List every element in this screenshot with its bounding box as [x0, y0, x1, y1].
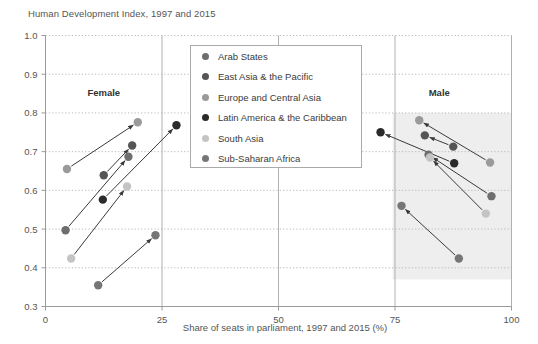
legend-color-swatch [202, 94, 209, 101]
legend-color-swatch [202, 73, 209, 80]
data-point [455, 254, 463, 262]
svg-text:0.8: 0.8 [24, 107, 37, 118]
legend-item-label: South Asia [218, 133, 263, 144]
legend-color-swatch [202, 53, 209, 60]
data-point [124, 152, 132, 160]
data-point [415, 116, 423, 124]
svg-text:Female: Female [87, 87, 120, 98]
svg-text:0.9: 0.9 [24, 69, 37, 80]
data-point [100, 171, 108, 179]
data-point [67, 254, 75, 262]
data-point [123, 182, 131, 190]
svg-text:0.4: 0.4 [24, 262, 37, 273]
x-axis-title-text: Share of seats in parliament, 1997 and 2… [183, 322, 387, 333]
legend-color-swatch [202, 114, 209, 121]
svg-text:0.5: 0.5 [24, 224, 37, 235]
data-point [376, 128, 384, 136]
legend-item[interactable]: Latin America & the Caribbean [191, 108, 361, 129]
data-point [486, 158, 494, 166]
data-point [128, 141, 136, 149]
legend-item[interactable]: East Asia & the Pacific [191, 67, 361, 88]
x-axis-title: Share of seats in parliament, 1997 and 2… [0, 322, 538, 333]
legend: Arab States East Asia & the Pacific Euro… [190, 45, 362, 168]
data-point [94, 281, 102, 289]
data-point [450, 159, 458, 167]
legend-item[interactable]: Arab States [191, 46, 361, 67]
data-point [151, 231, 159, 239]
data-point [63, 165, 71, 173]
svg-text:0.7: 0.7 [24, 146, 37, 157]
data-point [397, 202, 405, 210]
data-point [134, 118, 142, 126]
svg-text:0.6: 0.6 [24, 185, 37, 196]
data-point [426, 153, 434, 161]
data-point [99, 195, 107, 203]
legend-item-label: Latin America & the Caribbean [218, 112, 347, 123]
data-point [487, 192, 495, 200]
legend-item[interactable]: Europe and Central Asia [191, 87, 361, 108]
chart-container: Human Development Index, 1997 and 2015 0… [0, 0, 538, 344]
svg-text:1.0: 1.0 [24, 30, 37, 41]
data-point [421, 131, 429, 139]
legend-item-label: Sub-Saharan Africa [218, 153, 300, 164]
legend-item-label: East Asia & the Pacific [218, 71, 313, 82]
legend-item[interactable]: Sub-Saharan Africa [191, 149, 361, 170]
legend-color-swatch [202, 155, 209, 162]
svg-text:Male: Male [429, 87, 450, 98]
data-point [449, 142, 457, 150]
svg-text:0.3: 0.3 [24, 301, 37, 312]
legend-color-swatch [202, 135, 209, 142]
data-point [61, 226, 69, 234]
data-point [482, 209, 490, 217]
legend-item-label: Arab States [218, 51, 268, 62]
data-point [172, 121, 180, 129]
legend-item-label: Europe and Central Asia [218, 92, 321, 103]
legend-item[interactable]: South Asia [191, 128, 361, 149]
